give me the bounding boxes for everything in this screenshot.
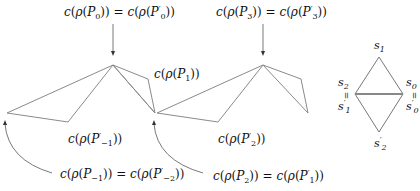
- diamond-label-s0: s0: [406, 77, 417, 88]
- curved-arrows: [5, 124, 203, 173]
- diamond-label-s1: s1: [374, 40, 385, 51]
- down-arrows: [111, 24, 265, 56]
- label-p-minus1-prime: c(ρ(P′−1)): [68, 133, 122, 145]
- diamond-label-s0-prime: s′0: [406, 101, 419, 112]
- label-p2-equals-p1prime: c(ρ(P2)) = c(ρ(P′1)): [213, 170, 324, 182]
- label-p-minus1-equals-p-minus2prime: c(ρ(P−1)) = c(ρ(P′−2)): [60, 168, 184, 180]
- label-p3-equals-p3prime: c(ρ(P3)) = c(ρ(P′3)): [216, 6, 327, 18]
- diamond-equals-right: =: [409, 92, 418, 100]
- diamond-label-s2-prime: s′2: [374, 138, 387, 149]
- diamond: [355, 57, 403, 132]
- diamond-equals-left: =: [341, 92, 350, 100]
- label-p1: c(ρ(P1)): [154, 68, 200, 80]
- left-polygon-fan: [7, 65, 155, 122]
- diamond-label-s1-prime: s′1: [338, 101, 351, 112]
- label-p0-equals-p0prime: c(ρ(P0)) = c(ρ(P′0)): [64, 6, 175, 18]
- diagram-canvas: [0, 0, 420, 191]
- label-p2-prime: c(ρ(P′2)): [218, 133, 266, 145]
- diamond-label-s2: s2: [338, 77, 349, 88]
